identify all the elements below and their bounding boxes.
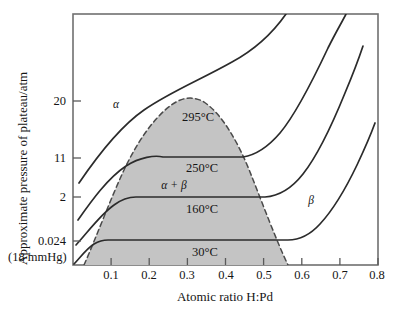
y-tick-label-0024: 0.024 (20, 235, 66, 248)
region-label-alpha-beta: α + β (161, 180, 186, 192)
x-tick-label-0-7: 0.7 (332, 269, 348, 282)
isotherm-label-250C: 250°C (186, 162, 218, 175)
x-axis-title: Atomic ratio H:Pd (177, 290, 273, 303)
region-label-alpha: α (113, 99, 119, 111)
x-tick-label-0-1: 0.1 (103, 269, 119, 282)
y-tick-label-20: 20 (26, 95, 66, 108)
isotherm-label-295C: 295°C (182, 111, 214, 124)
y-tick-sub-label-mmhg: (18 mmHg) (8, 251, 66, 264)
isotherm-label-30C: 30°C (192, 246, 218, 259)
y-tick-label-11: 11 (26, 152, 66, 165)
x-tick-label-0-8: 0.8 (369, 269, 385, 282)
x-tick-label-0-2: 0.2 (141, 269, 157, 282)
phase-diagram-figure: Approximate pressure of plateau/atm Atom… (0, 0, 400, 311)
x-tick-label-0-3: 0.3 (179, 269, 195, 282)
y-tick-label-2: 2 (26, 191, 66, 204)
region-label-beta: β (308, 195, 314, 207)
x-tick-label-0-6: 0.6 (294, 269, 310, 282)
x-tick-label-0-4: 0.4 (218, 269, 234, 282)
x-tick-label-0-5: 0.5 (256, 269, 272, 282)
isotherm-label-160C: 160°C (186, 203, 218, 216)
